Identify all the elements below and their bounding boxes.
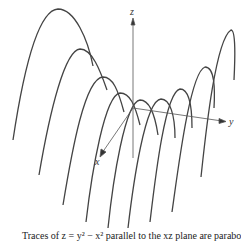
z-axis-arrowhead: [131, 18, 135, 25]
figure-caption: Traces of z = y² − x² parallel to the xz…: [22, 230, 241, 241]
parabola-trace-9: [201, 30, 235, 177]
parabola-trace-1: [13, 9, 93, 140]
y-axis-label: y: [228, 116, 234, 127]
parabola-traces: [13, 9, 235, 228]
x-axis-label: x: [94, 156, 100, 167]
surface-traces-diagram: z y x: [0, 0, 241, 230]
x-axis-arrowhead: [100, 149, 106, 157]
axes: [100, 18, 226, 158]
parabola-trace-8: [172, 67, 214, 212]
y-axis-arrowhead: [219, 119, 226, 124]
z-axis-label: z: [129, 6, 134, 17]
